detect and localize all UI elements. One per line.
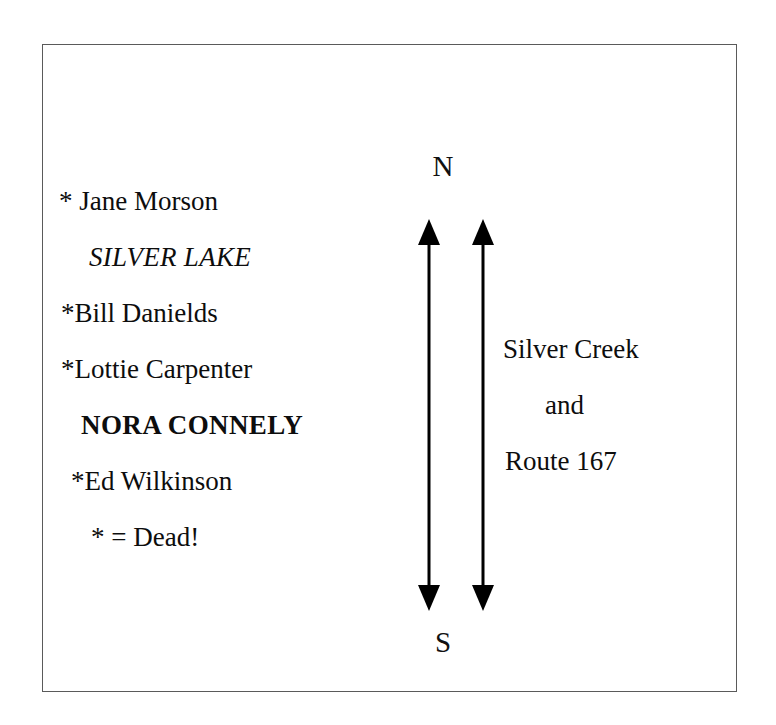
list-item-nora-connely: NORA CONNELY xyxy=(59,397,379,453)
list-item-bill-danields: *Bill Danields xyxy=(59,285,379,341)
list-item-silver-lake: SILVER LAKE xyxy=(59,229,379,285)
diagram-frame: * Jane Morson SILVER LAKE *Bill Danields… xyxy=(42,44,737,692)
road-label-group: Silver Creek and Route 167 xyxy=(463,321,723,489)
compass-north-label: N xyxy=(423,147,463,185)
label-silver-creek: Silver Creek xyxy=(463,321,723,377)
list-item-ed-wilkinson: *Ed Wilkinson xyxy=(59,453,379,509)
label-and: and xyxy=(463,377,723,433)
arrow-left-icon xyxy=(418,219,440,611)
label-route-167: Route 167 xyxy=(463,433,723,489)
list-item-jane-morson: * Jane Morson xyxy=(59,173,379,229)
list-item-lottie-carpenter: *Lottie Carpenter xyxy=(59,341,379,397)
name-list: * Jane Morson SILVER LAKE *Bill Danields… xyxy=(59,173,379,565)
compass-south-label: S xyxy=(423,623,463,661)
legend-dead-marker: * = Dead! xyxy=(59,509,379,565)
